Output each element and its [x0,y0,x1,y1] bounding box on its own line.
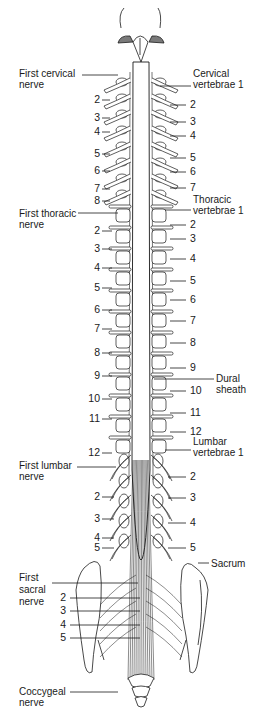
left-sacral-nerve-3: 3 [50,605,66,616]
right-cervical-vertebra-7: 7 [190,182,196,193]
right-cervical-vertebra-2: 2 [190,99,196,110]
right-thoracic-vertebra-3: 3 [190,233,196,244]
right-lumbar-vertebra-2: 2 [190,471,196,482]
left-thoracic-nerve-6: 6 [84,304,100,315]
left-cervical-nerve-8: 8 [84,195,100,206]
left-thoracic-nerve-12: 12 [84,447,100,458]
left-thoracic-nerve-7: 7 [84,323,100,334]
right-thoracic-vertebra-9: 9 [190,362,196,373]
right-lumbar-vertebra-3: 3 [190,492,196,503]
left-sacral-nerve-4: 4 [50,619,66,630]
left-thoracic-nerve-4: 4 [84,262,100,273]
label-coccygeal-nerve: Coccygeal nerve [19,686,66,708]
left-thoracic-nerve-11: 11 [84,413,100,424]
right-thoracic-vertebra-7: 7 [190,315,196,326]
left-cervical-nerve-6: 6 [84,165,100,176]
label-first-cervical-nerve: First cervical nerve [19,68,75,90]
left-thoracic-nerve-9: 9 [84,370,100,381]
label-lumbar-vertebrae-1: Lumbar vertebrae 1 [193,436,244,458]
right-thoracic-vertebra-10: 10 [190,385,202,396]
left-thoracic-nerve-2: 2 [84,225,100,236]
right-thoracic-vertebra-11: 11 [190,407,201,418]
right-cervical-vertebra-6: 6 [190,166,196,177]
left-sacral-nerve-5: 5 [50,632,66,643]
right-cervical-vertebra-3: 3 [190,116,196,127]
left-thoracic-nerve-8: 8 [84,347,100,358]
label-cervical-vertebrae-1: Cervical vertebrae 1 [193,68,244,90]
right-thoracic-vertebra-4: 4 [190,253,196,264]
right-cervical-vertebra-5: 5 [190,152,196,163]
right-thoracic-vertebra-2: 2 [190,219,196,230]
right-lumbar-vertebra-4: 4 [190,517,196,528]
left-thoracic-nerve-10: 10 [84,393,100,404]
label-first-lumbar-nerve: First lumbar nerve [19,460,72,482]
label-thoracic-vertebrae-1: Thoracic vertebrae 1 [193,194,244,216]
label-dural-sheath: Dural sheath [216,373,246,395]
left-lumbar-nerve-5: 5 [84,542,100,553]
label-sacrum: Sacrum [211,558,245,569]
right-cervical-vertebra-4: 4 [190,130,196,141]
coccyx [128,674,154,707]
left-sacral-nerve-2: 2 [50,592,66,603]
left-lumbar-nerve-3: 3 [84,513,100,524]
left-cervical-nerve-7: 7 [84,183,100,194]
label-first-sacral-nerve: First sacral nerve [19,572,46,608]
right-lumbar-vertebra-5: 5 [190,542,196,553]
left-thoracic-nerve-3: 3 [84,243,100,254]
right-thoracic-vertebra-8: 8 [190,337,196,348]
left-lumbar-nerve-2: 2 [84,491,100,502]
spinal-cord-illustration [0,0,263,725]
right-thoracic-vertebra-6: 6 [190,294,196,305]
left-cervical-nerve-2: 2 [84,94,100,105]
label-first-thoracic-nerve: First thoracic nerve [19,208,76,230]
skull-base [118,8,164,62]
left-thoracic-nerve-5: 5 [84,282,100,293]
right-thoracic-vertebra-5: 5 [190,275,196,286]
left-cervical-nerve-4: 4 [84,126,100,137]
left-cervical-nerve-5: 5 [84,148,100,159]
left-cervical-nerve-3: 3 [84,112,100,123]
